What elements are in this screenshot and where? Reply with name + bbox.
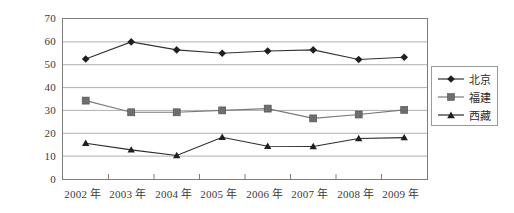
legend-label: 北京 — [469, 71, 491, 87]
x-axis-ticks — [109, 174, 382, 179]
series-line-xizang — [82, 134, 408, 159]
plot-svg — [63, 19, 427, 179]
y-axis-tick-label: 40 — [30, 82, 56, 93]
chart-legend: 北京 福建 西藏 — [431, 66, 498, 126]
diamond-marker-icon — [437, 73, 465, 85]
y-axis-tick-label: 70 — [30, 13, 56, 24]
series-markers-xizang — [82, 134, 408, 159]
plot-area — [62, 18, 428, 180]
legend-label: 福建 — [469, 89, 491, 105]
y-axis-tick-label: 30 — [30, 105, 56, 116]
legend-item-beijing[interactable]: 北京 — [437, 71, 491, 87]
x-axis-tick-label: 2009 年 — [366, 188, 436, 200]
y-axis-tick-label: 50 — [30, 59, 56, 70]
y-axis-tick-label: 20 — [30, 128, 56, 139]
y-axis-tick-label: 10 — [30, 151, 56, 162]
legend-item-fujian[interactable]: 福建 — [437, 89, 491, 105]
y-axis-tick-label: 60 — [30, 36, 56, 47]
y-axis-tick-label: 0 — [30, 174, 56, 185]
square-marker-icon — [437, 91, 465, 103]
series-line-fujian — [82, 97, 408, 122]
line-chart: 70 60 50 40 30 20 10 0 — [0, 0, 514, 213]
triangle-marker-icon — [437, 109, 465, 121]
legend-item-xizang[interactable]: 西藏 — [437, 107, 491, 123]
legend-label: 西藏 — [469, 107, 491, 123]
